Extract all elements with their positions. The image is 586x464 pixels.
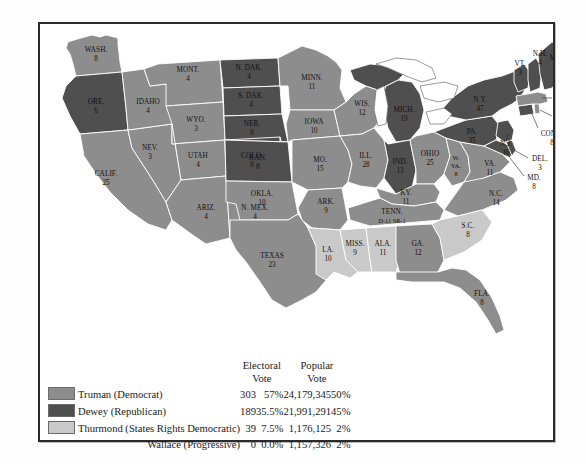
state-rhodeisland[interactable] xyxy=(534,103,540,114)
svg-text:TENN.: TENN. xyxy=(381,208,403,216)
legend-electoral-pct-thurmond: 7.5% xyxy=(256,420,283,437)
svg-text:3: 3 xyxy=(538,164,542,172)
color-swatch-thurmond xyxy=(48,421,75,434)
legend-row-wallace[interactable]: Wallace (Progressive) 0 0.0% 1,157,326 2… xyxy=(48,437,350,452)
popular-hdr-line1: Popular xyxy=(300,360,333,371)
svg-text:23: 23 xyxy=(268,261,276,269)
svg-text:NEV.: NEV. xyxy=(142,144,158,152)
svg-text:4: 4 xyxy=(204,213,208,221)
svg-text:S.C.: S.C. xyxy=(462,222,475,230)
svg-text:N.H.: N.H. xyxy=(533,50,547,58)
legend-popular-pct-wallace: 2% xyxy=(331,437,350,452)
svg-text:KAN.: KAN. xyxy=(249,154,267,162)
svg-text:WYO.: WYO. xyxy=(186,116,205,124)
svg-text:ILL.: ILL. xyxy=(359,152,372,160)
legend-table: Electoral Vote Popular Vote xyxy=(48,358,350,452)
legend-popular-pct-thurmond: 2% xyxy=(331,420,350,437)
legend-block: Electoral Vote Popular Vote xyxy=(40,354,553,440)
svg-text:NEB.: NEB. xyxy=(244,120,261,128)
svg-text:10: 10 xyxy=(324,255,332,263)
svg-text:FLA.: FLA. xyxy=(474,290,490,298)
svg-text:11: 11 xyxy=(309,83,316,91)
svg-text:3: 3 xyxy=(194,125,198,133)
legend-swatch-cell-truman xyxy=(48,386,78,403)
svg-text:16: 16 xyxy=(502,149,510,157)
legend-header-popular: Popular Vote xyxy=(283,358,350,386)
legend-popular-pct-truman: 50% xyxy=(331,386,350,403)
svg-text:MONT.: MONT. xyxy=(177,66,200,74)
legend-swatch-cell-dewey xyxy=(48,403,78,420)
svg-text:DEL.: DEL. xyxy=(532,155,548,163)
svg-text:11: 11 xyxy=(403,198,410,206)
svg-text:N. DAK.: N. DAK. xyxy=(236,64,263,72)
svg-text:TEXAS: TEXAS xyxy=(260,252,284,260)
legend-popular-truman: 24,179,345 xyxy=(283,386,331,403)
election-map-figure: .s-truman{fill:#8d8d8d;stroke:#ffffff;st… xyxy=(0,0,586,464)
svg-text:6: 6 xyxy=(94,107,98,115)
legend-popular-thurmond: 1,176,125 xyxy=(283,420,331,437)
state-arkansas[interactable] xyxy=(298,188,348,230)
legend-electoral-dewey: 189 xyxy=(240,403,256,420)
svg-text:6: 6 xyxy=(250,161,254,169)
us-electoral-map: .s-truman{fill:#8d8d8d;stroke:#ffffff;st… xyxy=(40,24,553,354)
legend-popular-dewey: 21,991,291 xyxy=(283,403,331,420)
legend-electoral-wallace: 0 xyxy=(240,437,256,452)
electoral-hdr-line1: Electoral xyxy=(243,360,281,371)
svg-text:KY.: KY. xyxy=(400,189,412,197)
svg-text:8: 8 xyxy=(480,299,484,307)
svg-text:W.: W. xyxy=(452,154,459,161)
svg-text:8: 8 xyxy=(94,55,98,63)
svg-text:4: 4 xyxy=(249,101,253,109)
state-florida[interactable] xyxy=(396,268,504,334)
legend-header-spacer-swatch xyxy=(48,358,78,386)
svg-text:3: 3 xyxy=(518,69,522,77)
svg-text:4: 4 xyxy=(538,59,542,67)
svg-text:8: 8 xyxy=(466,231,470,239)
svg-text:35: 35 xyxy=(468,137,476,145)
legend-electoral-pct-dewey: 35.5% xyxy=(256,403,283,420)
state-ohio[interactable] xyxy=(410,132,450,184)
svg-text:CALIF.: CALIF. xyxy=(95,170,118,178)
legend-row-truman[interactable]: Truman (Democrat) 303 57% 24,179,345 50% xyxy=(48,386,350,403)
svg-text:25: 25 xyxy=(102,179,110,187)
map-svg: .s-truman{fill:#8d8d8d;stroke:#ffffff;st… xyxy=(40,24,553,354)
legend-body: Truman (Democrat) 303 57% 24,179,345 50%… xyxy=(48,386,350,452)
svg-text:D-11 SR-1: D-11 SR-1 xyxy=(378,217,405,224)
svg-text:OHIO: OHIO xyxy=(421,150,439,158)
svg-text:8: 8 xyxy=(256,163,260,171)
legend-row-thurmond[interactable]: Thurmond (States Rights Democratic) 39 7… xyxy=(48,420,350,437)
svg-text:OKLA.: OKLA. xyxy=(251,190,273,198)
legend-electoral-pct-truman: 57% xyxy=(256,386,283,403)
svg-text:11: 11 xyxy=(487,169,494,177)
svg-text:28: 28 xyxy=(362,161,370,169)
svg-text:MICH.: MICH. xyxy=(393,106,414,114)
legend-label-truman: Truman (Democrat) xyxy=(78,386,240,403)
svg-text:IND.: IND. xyxy=(393,158,408,166)
svg-text:ME.: ME. xyxy=(550,54,553,62)
svg-text:ORE.: ORE. xyxy=(88,98,105,106)
color-swatch-truman xyxy=(48,387,75,400)
legend-popular-wallace: 1,157,326 xyxy=(283,437,331,452)
legend-row-dewey[interactable]: Dewey (Republican) 189 35.5% 21,991,291 … xyxy=(48,403,350,420)
svg-text:12: 12 xyxy=(358,109,366,117)
svg-text:10: 10 xyxy=(310,127,318,135)
svg-text:ARIZ.: ARIZ. xyxy=(196,204,215,212)
svg-text:N.C.: N.C. xyxy=(489,190,503,198)
svg-text:25: 25 xyxy=(426,159,434,167)
svg-text:WASH.: WASH. xyxy=(85,46,108,54)
svg-text:13: 13 xyxy=(396,167,404,175)
svg-text:VT.: VT. xyxy=(514,60,525,68)
svg-text:WIS.: WIS. xyxy=(354,100,369,108)
popular-hdr-line2: Vote xyxy=(307,373,326,384)
legend-electoral-pct-wallace: 0.0% xyxy=(256,437,283,452)
legend-label-dewey: Dewey (Republican) xyxy=(78,403,240,420)
legend-popular-pct-dewey: 45% xyxy=(331,403,350,420)
legend-header-row: Electoral Vote Popular Vote xyxy=(48,358,350,386)
svg-text:9: 9 xyxy=(324,207,328,215)
svg-text:MO.: MO. xyxy=(313,156,327,164)
state-newjersey[interactable] xyxy=(496,120,514,142)
svg-text:VA.: VA. xyxy=(451,162,461,169)
svg-text:10: 10 xyxy=(258,199,266,207)
svg-text:N.Y.: N.Y. xyxy=(473,96,487,104)
svg-text:8: 8 xyxy=(454,170,457,177)
